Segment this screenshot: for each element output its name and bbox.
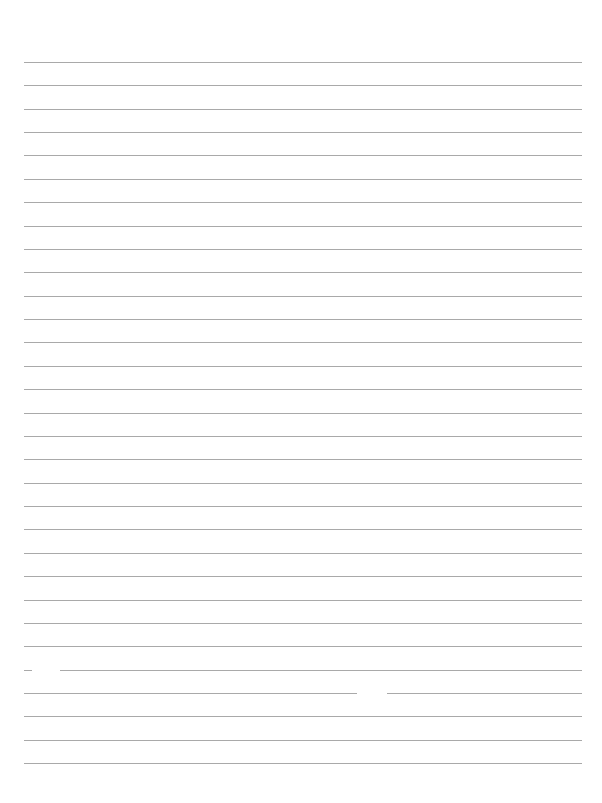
ruled-line	[24, 553, 582, 554]
ruled-line	[24, 272, 582, 273]
lined-paper-sheet	[0, 0, 602, 803]
scan-gap	[32, 668, 60, 671]
ruled-line	[24, 459, 582, 460]
ruled-line	[24, 413, 582, 414]
ruled-line	[24, 529, 582, 530]
ruled-line	[24, 85, 582, 86]
ruled-line	[24, 296, 582, 297]
ruled-line	[24, 202, 582, 203]
ruled-line	[24, 109, 582, 110]
ruled-line	[24, 646, 582, 647]
ruled-line	[24, 670, 582, 671]
ruled-line	[24, 226, 582, 227]
ruled-line	[24, 132, 582, 133]
ruled-line	[24, 623, 582, 624]
ruled-line	[24, 483, 582, 484]
ruled-line	[24, 716, 582, 717]
ruled-line	[24, 342, 582, 343]
ruled-line	[24, 389, 582, 390]
ruled-line	[24, 576, 582, 577]
ruled-line	[24, 600, 582, 601]
ruled-line	[24, 506, 582, 507]
ruled-line	[24, 249, 582, 250]
ruled-line	[24, 62, 582, 63]
ruled-line	[24, 693, 582, 694]
scan-gap	[357, 691, 387, 694]
ruled-line	[24, 763, 582, 764]
ruled-line	[24, 366, 582, 367]
ruled-line	[24, 319, 582, 320]
ruled-line	[24, 155, 582, 156]
ruled-line	[24, 179, 582, 180]
ruled-line	[24, 740, 582, 741]
ruled-line	[24, 436, 582, 437]
